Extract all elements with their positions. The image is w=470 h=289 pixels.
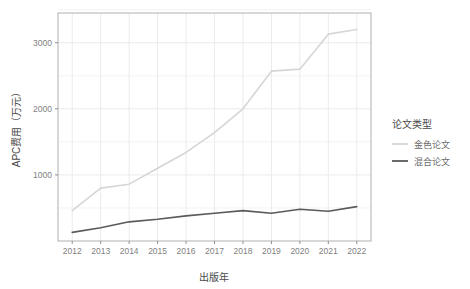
y-axis-tick-label: 1000: [33, 170, 52, 180]
x-axis-tick-label: 2019: [262, 246, 281, 256]
x-axis-title: 出版年: [199, 271, 229, 283]
x-axis-tick-label: 2013: [91, 246, 110, 256]
y-axis-title: APC费用（万元）: [10, 87, 22, 168]
x-axis-tick-label: 2021: [319, 246, 338, 256]
x-axis-tick-label: 2020: [290, 246, 309, 256]
x-axis-tick-label: 2022: [347, 246, 366, 256]
legend-item-0[interactable]: 金色论文: [392, 139, 450, 150]
legend: 论文类型 金色论文混合论文: [392, 118, 450, 167]
x-axis-tick-label: 2017: [205, 246, 224, 256]
chart-container: 100020003000 201220132014201520162017201…: [0, 0, 470, 289]
x-axis-tick-label: 2015: [148, 246, 167, 256]
x-axis-tick-label: 2014: [120, 246, 139, 256]
y-axis-tick-label: 3000: [33, 38, 52, 48]
x-axis-tick-label: 2018: [233, 246, 252, 256]
legend-item-label: 金色论文: [414, 139, 450, 150]
y-axis: 100020003000: [33, 38, 58, 180]
y-axis-tick-label: 2000: [33, 104, 52, 114]
line-chart-svg: 100020003000 201220132014201520162017201…: [0, 0, 470, 289]
x-axis-tick-label: 2012: [63, 246, 82, 256]
legend-item-1[interactable]: 混合论文: [392, 156, 450, 167]
legend-item-label: 混合论文: [414, 156, 450, 167]
x-axis: 2012201320142015201620172018201920202021…: [63, 241, 367, 256]
x-axis-tick-label: 2016: [177, 246, 196, 256]
legend-title: 论文类型: [392, 118, 432, 130]
